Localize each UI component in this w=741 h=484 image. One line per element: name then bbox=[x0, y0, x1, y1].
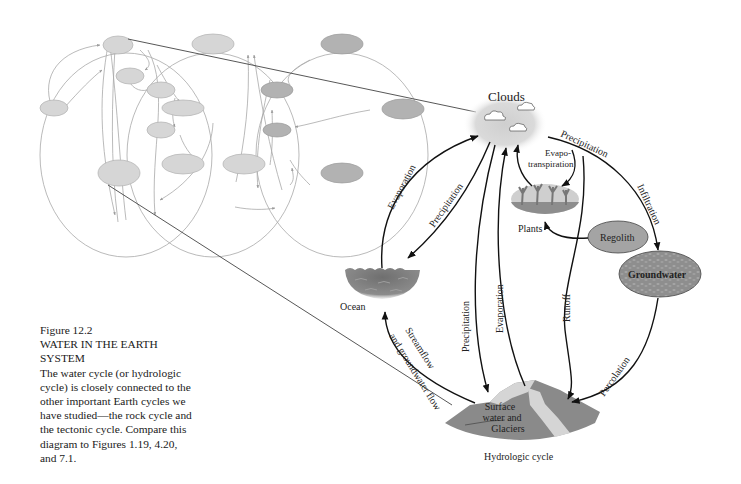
thumb-node bbox=[382, 99, 424, 119]
thumb-node bbox=[223, 154, 265, 174]
regolith-label: Regolith bbox=[600, 232, 634, 243]
hydrologic-cycle: Clouds Plants Regolith Groundwater bbox=[340, 89, 701, 462]
caption-line: cycle) is closely connected to the bbox=[40, 380, 230, 394]
caption-line: and 7.1. bbox=[40, 451, 230, 465]
surface-label-3: Glaciers bbox=[491, 423, 524, 434]
surface-water-glaciers-reservoir: Surface water and Glaciers bbox=[445, 380, 600, 440]
groundwater-reservoir: Groundwater bbox=[619, 251, 701, 297]
surface-label-1: Surface bbox=[485, 401, 516, 412]
thumb-node bbox=[147, 82, 175, 98]
flow-label-precipitation-ocean: Precipitation bbox=[427, 181, 465, 229]
surface-label-2: water and bbox=[482, 412, 521, 423]
thumb-node bbox=[263, 123, 291, 137]
thumb-node bbox=[40, 100, 68, 116]
figure-caption: Figure 12.2 WATER IN THE EARTH SYSTEM Th… bbox=[40, 323, 230, 465]
flow-label-evapotranspiration-1: Evapo- bbox=[545, 148, 571, 158]
flow-label-evaporation-ocean: Evaporation bbox=[385, 163, 418, 211]
thumb-node bbox=[116, 68, 144, 84]
groundwater-label: Groundwater bbox=[628, 269, 687, 280]
thumb-node bbox=[261, 82, 293, 98]
flow-label-evaporation-land: Evaporation bbox=[494, 284, 505, 333]
clouds-label: Clouds bbox=[488, 89, 525, 104]
thumb-node bbox=[192, 34, 234, 54]
caption-line: have studied—the rock cycle and bbox=[40, 408, 230, 422]
flow-label-runoff: Runoff bbox=[561, 293, 572, 322]
plants-label: Plants bbox=[518, 223, 543, 234]
thumb-node bbox=[147, 122, 175, 138]
caption-line: diagram to Figures 1.19, 4.20, bbox=[40, 437, 230, 451]
linked-cycles-thumbnail bbox=[40, 34, 428, 257]
flow-label-percolation: Percolation bbox=[597, 355, 632, 399]
thumb-node bbox=[98, 160, 140, 186]
thumb-node bbox=[162, 100, 204, 116]
thumb-node bbox=[321, 34, 363, 54]
clouds-reservoir: Clouds bbox=[463, 89, 547, 154]
figure-number: Figure 12.2 bbox=[40, 323, 230, 337]
caption-line: the tectonic cycle. Compare this bbox=[40, 422, 230, 436]
ocean-reservoir: Ocean bbox=[340, 268, 420, 312]
ocean-label: Ocean bbox=[340, 301, 366, 312]
regolith-reservoir: Regolith bbox=[588, 221, 648, 253]
caption-line: other important Earth cycles we bbox=[40, 394, 230, 408]
plants-reservoir: Plants bbox=[511, 184, 579, 234]
thumb-node bbox=[321, 163, 363, 183]
flow-label-infiltration: Infiltration bbox=[635, 182, 663, 226]
caption-line: The water cycle (or hydrologic bbox=[40, 366, 230, 380]
flow-label-evapotranspiration-2: transpiration bbox=[528, 159, 574, 169]
figure-title-line2: SYSTEM bbox=[40, 351, 230, 365]
flow-label-precipitation-land: Precipitation bbox=[460, 301, 471, 352]
thumb-node bbox=[162, 154, 204, 174]
figure-title-line1: WATER IN THE EARTH bbox=[40, 337, 230, 351]
hydrologic-cycle-title: Hydrologic cycle bbox=[484, 451, 554, 462]
